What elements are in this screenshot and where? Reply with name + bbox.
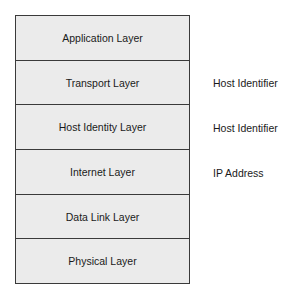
layer-label: Data Link Layer (66, 211, 140, 223)
protocol-stack: Application Layer Transport Layer Host I… (15, 15, 190, 284)
layer-label: Physical Layer (68, 255, 136, 267)
layer-data-link: Data Link Layer (16, 195, 189, 240)
annotation-transport: Host Identifier (213, 77, 278, 89)
layer-label: Application Layer (62, 32, 143, 44)
layer-internet: Internet Layer (16, 150, 189, 195)
layer-label: Transport Layer (66, 77, 140, 89)
layer-physical: Physical Layer (16, 239, 189, 283)
annotation-host-identity: Host Identifier (213, 122, 278, 134)
layer-transport: Transport Layer (16, 61, 189, 106)
layer-label: Internet Layer (70, 166, 135, 178)
annotation-internet: IP Address (213, 167, 264, 179)
layer-host-identity: Host Identity Layer (16, 105, 189, 150)
layer-application: Application Layer (16, 16, 189, 61)
layer-label: Host Identity Layer (59, 121, 147, 133)
